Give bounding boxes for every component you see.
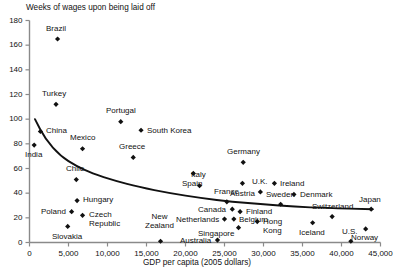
- data-point-marker[interactable]: [240, 181, 245, 186]
- y-tick-label: 180: [0, 16, 23, 25]
- data-point-label: Hungary: [83, 195, 113, 204]
- data-point-label: Germany: [227, 147, 260, 156]
- data-point-marker[interactable]: [74, 177, 79, 182]
- data-point-marker[interactable]: [131, 155, 136, 160]
- data-point-marker[interactable]: [236, 225, 241, 230]
- x-axis-title: GDP per capita (2005 dollars): [0, 258, 394, 267]
- data-point-label: China: [46, 126, 67, 135]
- y-tick-label: 60: [0, 164, 23, 173]
- data-point-label: Switzerland: [312, 202, 353, 211]
- data-point-label: India: [25, 150, 42, 159]
- data-point-label: Denmark: [300, 190, 332, 199]
- data-point-label: Spain: [182, 179, 202, 188]
- y-tick-label: 120: [0, 90, 23, 99]
- y-tick-label: 80: [0, 139, 23, 148]
- data-point-label: Australia: [180, 236, 211, 245]
- data-point-label: Slovakia: [52, 232, 82, 241]
- data-point-marker[interactable]: [32, 142, 37, 147]
- data-point-marker[interactable]: [230, 207, 235, 212]
- data-point-marker[interactable]: [258, 189, 263, 194]
- y-tick-label: 0: [0, 238, 23, 247]
- data-point-label: South Korea: [147, 126, 191, 135]
- y-tick-label: 20: [0, 213, 23, 222]
- data-point-label: France: [214, 187, 239, 196]
- data-point-label: U.K.: [252, 177, 268, 186]
- data-point-label: Chile: [66, 164, 84, 173]
- data-point-label: Iceland: [299, 228, 325, 237]
- data-point-marker[interactable]: [53, 102, 58, 107]
- data-point-label: Canada: [198, 205, 226, 214]
- x-tick-label: 45,000: [351, 249, 394, 258]
- data-point-marker[interactable]: [363, 226, 368, 231]
- data-point-marker[interactable]: [231, 216, 236, 221]
- data-point-marker[interactable]: [369, 207, 374, 212]
- data-point-label: Japan: [359, 195, 381, 204]
- data-point-marker[interactable]: [65, 224, 70, 229]
- data-point-marker[interactable]: [330, 214, 335, 219]
- data-point-label: Mexico: [70, 133, 95, 142]
- data-point-marker[interactable]: [74, 198, 79, 203]
- y-tick-label: 40: [0, 188, 23, 197]
- data-point-marker[interactable]: [222, 216, 227, 221]
- data-point-label: Czech Republic: [89, 210, 120, 228]
- data-point-label: Sweden: [266, 190, 295, 199]
- data-point-marker[interactable]: [138, 128, 143, 133]
- data-point-label: Brazil: [46, 24, 66, 33]
- data-point-marker[interactable]: [55, 36, 60, 41]
- y-tick-label: 160: [0, 40, 23, 49]
- data-point-marker[interactable]: [118, 119, 123, 124]
- data-point-marker[interactable]: [272, 181, 277, 186]
- data-point-label: Italy: [191, 170, 206, 179]
- data-point-label: Greece: [119, 142, 145, 151]
- data-point-label: Poland: [41, 207, 66, 216]
- data-point-marker[interactable]: [310, 220, 315, 225]
- y-tick-label: 100: [0, 114, 23, 123]
- data-point-label: Hong Kong: [263, 217, 282, 235]
- data-point-label: Netherlands: [176, 215, 219, 224]
- data-point-label: Turkey: [42, 89, 66, 98]
- data-point-label: New Zealand: [145, 212, 174, 230]
- data-point-marker[interactable]: [238, 209, 243, 214]
- data-point-label: U.S.: [342, 227, 358, 236]
- scatter-chart: Weeks of wages upon being laid off GDP p…: [0, 0, 394, 273]
- data-point-marker[interactable]: [241, 160, 246, 165]
- y-tick-label: 140: [0, 65, 23, 74]
- data-point-label: Portugal: [106, 106, 136, 115]
- data-point-marker[interactable]: [80, 213, 85, 218]
- data-point-marker[interactable]: [69, 209, 74, 214]
- data-point-marker[interactable]: [80, 146, 85, 151]
- data-point-label: Ireland: [280, 179, 304, 188]
